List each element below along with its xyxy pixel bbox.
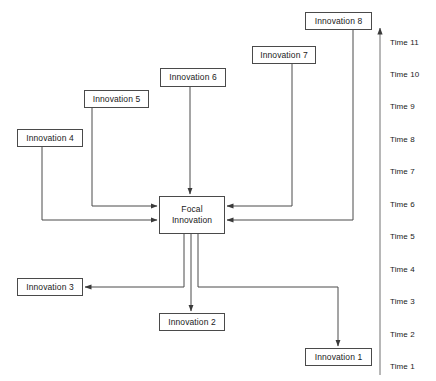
time-label-time-3: Time 3 xyxy=(390,297,415,306)
edge-focal-to-innovation-3 xyxy=(85,234,184,287)
node-innovation-5[interactable]: Innovation 5 xyxy=(84,90,149,108)
time-label-time-7: Time 7 xyxy=(390,167,415,176)
edge-innovation-5-to-focal xyxy=(92,108,157,206)
time-label-time-10: Time 10 xyxy=(390,70,419,79)
edge-innovation-7-to-focal xyxy=(227,64,292,206)
time-label-time-1: Time 1 xyxy=(390,362,415,371)
time-label-time-8: Time 8 xyxy=(390,135,415,144)
edge-innovation-4-to-focal xyxy=(42,147,157,220)
diagram-canvas: Focal InnovationInnovation 1Innovation 2… xyxy=(0,0,436,381)
node-innovation-1[interactable]: Innovation 1 xyxy=(305,348,372,366)
time-label-time-5: Time 5 xyxy=(390,232,415,241)
time-label-time-6: Time 6 xyxy=(390,200,415,209)
node-focal[interactable]: Focal Innovation xyxy=(159,196,225,234)
time-label-time-11: Time 11 xyxy=(390,38,419,47)
node-innovation-2[interactable]: Innovation 2 xyxy=(159,313,225,331)
time-label-time-4: Time 4 xyxy=(390,265,415,274)
node-innovation-6[interactable]: Innovation 6 xyxy=(160,68,226,87)
node-innovation-4[interactable]: Innovation 4 xyxy=(17,129,83,147)
time-label-time-9: Time 9 xyxy=(390,102,415,111)
node-innovation-3[interactable]: Innovation 3 xyxy=(17,278,83,296)
node-innovation-7[interactable]: Innovation 7 xyxy=(252,46,316,64)
time-label-time-2: Time 2 xyxy=(390,330,415,339)
node-innovation-8[interactable]: Innovation 8 xyxy=(305,12,372,30)
